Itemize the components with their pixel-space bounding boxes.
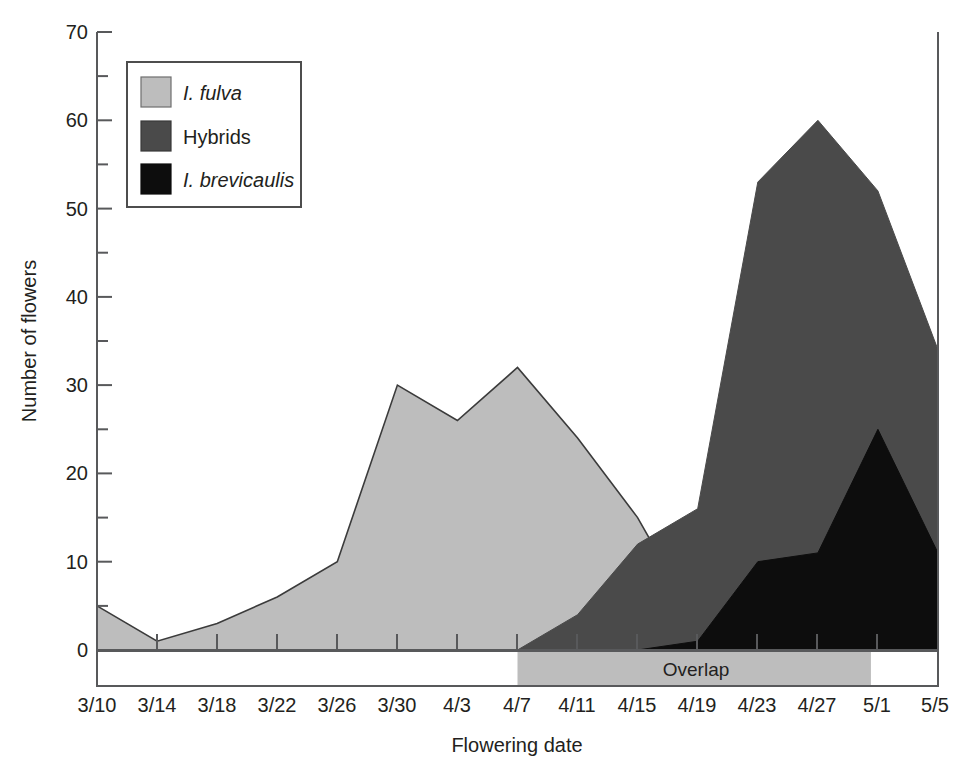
x-tick-label: 3/30 <box>378 694 417 716</box>
legend-label-i-brevicaulis: I. brevicaulis <box>183 169 294 191</box>
legend-item-hybrids[interactable]: Hybrids <box>141 121 251 151</box>
y-tick-label: 60 <box>66 109 88 131</box>
y-tick-label: 70 <box>66 21 88 43</box>
x-tick-label: 3/26 <box>318 694 357 716</box>
y-tick-label: 20 <box>66 462 88 484</box>
legend-item-i-brevicaulis[interactable]: I. brevicaulis <box>141 164 294 194</box>
legend-swatch-hybrids <box>141 121 171 151</box>
y-tick-label: 0 <box>77 639 88 661</box>
flowering-date-area-chart: 0 10 20 30 40 50 60 70 Number of flowers <box>0 0 975 766</box>
legend-label-hybrids: Hybrids <box>183 126 251 148</box>
x-tick-label: 4/15 <box>618 694 657 716</box>
x-tick-label: 3/22 <box>258 694 297 716</box>
y-axis-tick-labels: 0 10 20 30 40 50 60 70 <box>66 21 88 661</box>
y-tick-label: 40 <box>66 286 88 308</box>
x-tick-label: 3/10 <box>78 694 117 716</box>
x-tick-label: 4/27 <box>798 694 837 716</box>
y-axis-title: Number of flowers <box>18 260 40 422</box>
x-tick-label: 4/23 <box>738 694 777 716</box>
x-tick-label: 5/1 <box>863 694 891 716</box>
overlap-band-label: Overlap <box>663 659 730 680</box>
x-axis-title: Flowering date <box>451 734 582 756</box>
x-tick-label: 3/18 <box>198 694 237 716</box>
legend-swatch-i-brevicaulis <box>141 164 171 194</box>
legend-swatch-i-fulva <box>141 77 171 107</box>
x-tick-label: 4/3 <box>443 694 471 716</box>
legend: I. fulva Hybrids I. brevicaulis <box>127 62 301 207</box>
x-tick-label: 4/19 <box>678 694 717 716</box>
x-tick-label: 5/5 <box>921 694 949 716</box>
x-axis-tick-labels: 3/10 3/14 3/18 3/22 3/26 3/30 4/3 4/7 4/… <box>78 694 949 716</box>
legend-item-i-fulva[interactable]: I. fulva <box>141 77 242 107</box>
x-tick-label: 3/14 <box>138 694 177 716</box>
x-tick-label: 4/7 <box>503 694 531 716</box>
chart-svg: 0 10 20 30 40 50 60 70 Number of flowers <box>0 0 975 766</box>
overlap-band: Overlap <box>97 651 938 686</box>
legend-label-i-fulva: I. fulva <box>183 82 242 104</box>
x-tick-label: 4/11 <box>558 694 595 716</box>
y-tick-label: 50 <box>66 198 88 220</box>
y-tick-label: 10 <box>66 551 88 573</box>
y-tick-label: 30 <box>66 374 88 396</box>
